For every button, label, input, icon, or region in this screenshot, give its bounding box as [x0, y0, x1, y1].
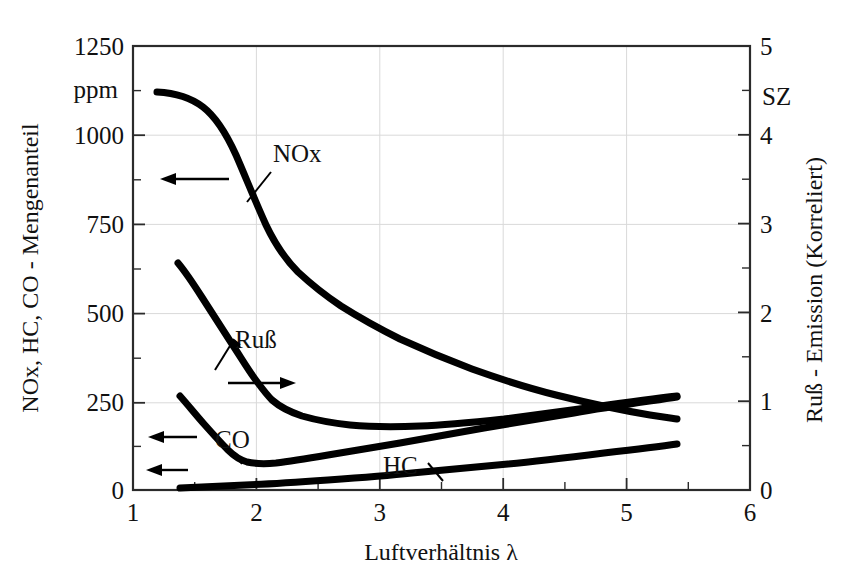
right-axis-unit-label: SZ [762, 83, 791, 110]
right-tick-label: 2 [760, 300, 773, 327]
curve-label-nox: NOx [273, 140, 322, 167]
x-tick-label: 2 [250, 499, 263, 526]
right-tick-label: 3 [760, 211, 773, 238]
curve-label-hc: HC [383, 452, 418, 479]
left-tick-label: 1250 [74, 33, 124, 60]
chart-canvas: 1250 1000 750 500 250 0 5 4 3 2 1 0 1 2 … [0, 0, 848, 578]
emissions-chart: 1250 1000 750 500 250 0 5 4 3 2 1 0 1 2 … [0, 0, 848, 578]
x-tick-label: 1 [127, 499, 140, 526]
x-tick-label: 5 [620, 499, 633, 526]
curve-label-russ: Ruß [235, 326, 277, 353]
left-tick-label: 0 [112, 477, 125, 504]
left-axis-unit-label: ppm [74, 76, 119, 103]
right-tick-label: 1 [760, 388, 773, 415]
x-tick-label: 4 [497, 499, 510, 526]
curve-label-co: CO [215, 426, 250, 453]
x-axis-title: Luftverhältnis λ [364, 539, 518, 565]
left-tick-label: 1000 [74, 122, 124, 149]
right-axis-title: Ruß - Emission (Korreliert) [801, 157, 827, 423]
chart-background [0, 0, 848, 578]
left-tick-label: 750 [87, 211, 125, 238]
left-tick-label: 250 [87, 389, 125, 416]
left-tick-label: 500 [87, 300, 125, 327]
right-tick-label: 4 [760, 122, 773, 149]
right-tick-label: 0 [760, 477, 773, 504]
left-axis-title: NOx, HC, CO - Mengenanteil [17, 123, 43, 413]
x-tick-label: 3 [374, 499, 387, 526]
x-tick-label: 6 [744, 499, 757, 526]
right-tick-label: 5 [760, 33, 773, 60]
